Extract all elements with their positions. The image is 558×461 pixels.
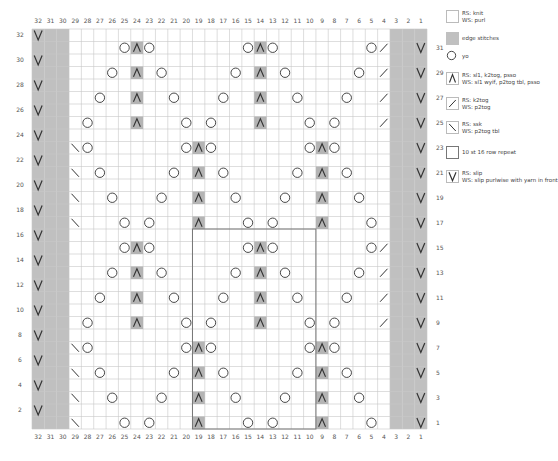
row-number: 29 — [436, 69, 444, 76]
row-number: 11 — [436, 294, 444, 301]
cdd-icon — [316, 142, 328, 155]
row-number: 17 — [436, 219, 444, 226]
column-number: 4 — [382, 17, 386, 24]
cdd-icon — [254, 292, 266, 305]
column-number: 7 — [345, 17, 349, 24]
column-number: 13 — [269, 17, 277, 24]
column-number: 10 — [306, 433, 314, 440]
legend-swatch-yo — [446, 50, 459, 63]
column-number: 12 — [281, 433, 289, 440]
row-number: 28 — [16, 81, 24, 88]
legend-line: RS: k2tog — [462, 97, 491, 104]
column-number: 15 — [244, 433, 252, 440]
column-number: 18 — [207, 17, 215, 24]
row-number: 16 — [16, 231, 24, 238]
row-number: 9 — [436, 319, 440, 326]
row-number: 23 — [436, 144, 444, 151]
column-number: 4 — [382, 433, 386, 440]
row-number: 26 — [16, 106, 24, 113]
row-number: 31 — [436, 44, 444, 51]
column-number: 1 — [419, 433, 423, 440]
column-number: 29 — [71, 433, 79, 440]
column-number: 28 — [84, 17, 92, 24]
column-number: 24 — [133, 433, 141, 440]
column-number: 5 — [370, 17, 374, 24]
column-number: 19 — [195, 433, 203, 440]
column-number: 22 — [158, 17, 166, 24]
cdd-icon — [316, 192, 328, 205]
row-number: 7 — [436, 344, 440, 351]
row-number: 10 — [16, 306, 24, 313]
cdd-icon — [316, 392, 328, 405]
column-number: 6 — [357, 17, 361, 24]
cdd-icon — [316, 342, 328, 355]
legend-label-yo: yo — [462, 53, 469, 60]
cdd-icon — [131, 42, 143, 55]
legend-label-ssk: RS: sskWS: p2tog tbl — [462, 121, 499, 135]
column-number: 21 — [170, 433, 178, 440]
legend-line: RS: slip — [462, 170, 558, 177]
column-number: 30 — [59, 17, 67, 24]
cdd-icon — [131, 92, 143, 105]
column-number: 28 — [84, 433, 92, 440]
cdd-icon — [254, 317, 266, 330]
column-number: 20 — [182, 433, 190, 440]
row-number: 8 — [18, 331, 22, 338]
cdd-icon — [254, 242, 266, 255]
row-number: 18 — [16, 206, 24, 213]
column-number: 16 — [232, 17, 240, 24]
column-number: 2 — [407, 17, 411, 24]
legend-label-k2tog: RS: k2togWS: p2tog — [462, 97, 491, 111]
cdd-icon — [447, 73, 458, 84]
legend-line: RS: sl1, k2tog, psso — [462, 72, 540, 79]
cdd-icon — [192, 142, 204, 155]
column-number: 20 — [182, 17, 190, 24]
legend-label-knit: RS: knitWS: purl — [462, 10, 485, 24]
column-number: 29 — [71, 17, 79, 24]
column-number: 21 — [170, 17, 178, 24]
yo-icon — [446, 50, 457, 61]
row-number: 22 — [16, 156, 24, 163]
legend-line: edge stitches — [462, 35, 499, 42]
column-number: 2 — [407, 433, 411, 440]
column-number: 8 — [333, 433, 337, 440]
cdd-icon — [254, 92, 266, 105]
column-number: 22 — [158, 433, 166, 440]
cdd-icon — [131, 117, 143, 130]
legend-swatch-cdd — [446, 72, 459, 85]
ssk-icon — [447, 122, 458, 133]
cdd-icon — [254, 267, 266, 280]
column-number: 26 — [108, 433, 116, 440]
legend-line: WS: purl — [462, 17, 485, 24]
column-number: 3 — [394, 433, 398, 440]
cdd-icon — [192, 217, 204, 230]
legend-label-edge: edge stitches — [462, 35, 499, 42]
cdd-icon — [316, 217, 328, 230]
row-number: 13 — [436, 269, 444, 276]
row-number: 24 — [16, 131, 24, 138]
legend-line: RS: knit — [462, 10, 485, 17]
row-number: 1 — [436, 419, 440, 426]
column-number: 10 — [306, 17, 314, 24]
cdd-icon — [131, 292, 143, 305]
column-number: 32 — [34, 433, 42, 440]
legend-line: 10 st 16 row repeat — [462, 149, 516, 156]
column-number: 17 — [220, 17, 228, 24]
row-number: 4 — [18, 381, 22, 388]
legend-swatch-knit — [446, 10, 459, 23]
legend-swatch-edge — [446, 32, 459, 45]
column-number: 18 — [207, 433, 215, 440]
column-number: 15 — [244, 17, 252, 24]
cdd-icon — [316, 167, 328, 180]
cdd-icon — [131, 67, 143, 80]
column-number: 11 — [294, 17, 302, 24]
legend-line: WS: slip purlwise with yarn in front — [462, 177, 558, 184]
column-number: 11 — [294, 433, 302, 440]
legend-swatch-repeat — [446, 146, 459, 159]
cdd-icon — [316, 367, 328, 380]
row-number: 21 — [436, 169, 444, 176]
cdd-icon — [192, 367, 204, 380]
column-number: 27 — [96, 17, 104, 24]
column-number: 16 — [232, 433, 240, 440]
